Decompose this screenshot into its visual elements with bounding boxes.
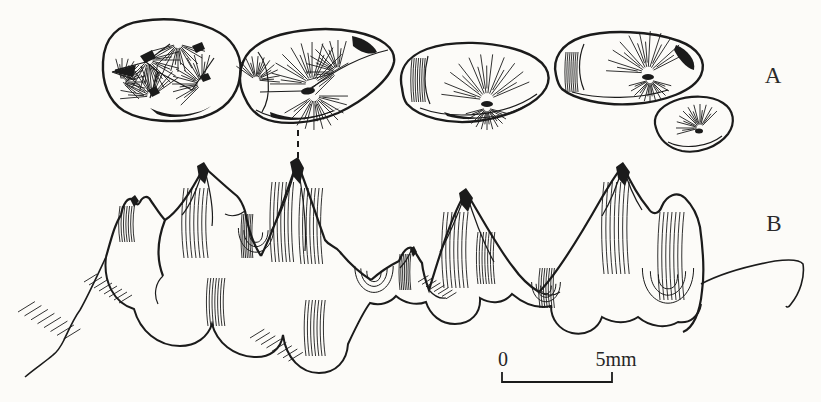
tooth-a3-outline [401, 43, 549, 122]
jaw-line-left [25, 257, 106, 377]
cusp-ridges [156, 162, 642, 304]
figure-canvas: 0 5mm A B [0, 0, 821, 402]
tooth-illustration: 0 5mm A B [0, 0, 821, 402]
tooth-a3 [401, 43, 549, 130]
tooth-a5 [655, 96, 733, 152]
jaw-line-right [701, 260, 803, 307]
cusp-outline-1 [106, 167, 261, 276]
tooth-a1 [103, 19, 241, 121]
panel-a-label: A [765, 63, 782, 88]
tooth-a4 [555, 23, 703, 104]
panel-b-label: B [766, 211, 781, 236]
cusp-outline-4 [539, 166, 703, 332]
scale-bar-bracket [502, 372, 612, 382]
scale-bar-end-label: 5mm [595, 348, 637, 370]
panel-b-lateral-row [18, 157, 803, 377]
scale-bar-start-label: 0 [498, 348, 508, 370]
cusp-apex-shading [130, 157, 630, 257]
panel-a-occlusal-row [103, 19, 733, 151]
scale-bar: 0 5mm [498, 348, 637, 382]
tooth-a2 [235, 29, 395, 137]
